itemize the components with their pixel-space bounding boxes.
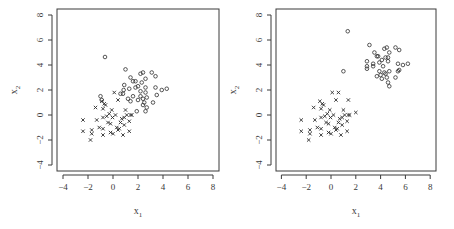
x-tick-label: −2 — [301, 182, 311, 192]
circle-point — [144, 91, 148, 95]
cross-point — [340, 123, 343, 126]
plot-frame — [276, 9, 436, 171]
cross-point — [343, 113, 346, 116]
circle-point — [129, 99, 133, 103]
cross-point — [121, 133, 124, 136]
cross-point — [128, 120, 131, 123]
x-tick-label: 8 — [428, 182, 433, 192]
circle-point — [386, 56, 390, 60]
cross-point — [116, 98, 119, 101]
circle-point — [135, 109, 139, 113]
circle-point — [342, 69, 346, 73]
cross-point — [125, 113, 128, 116]
circle-point — [396, 62, 400, 66]
circle-point — [119, 92, 123, 96]
cross-point — [316, 126, 319, 129]
circle-point — [387, 69, 391, 73]
y-axis: −4−202468 — [35, 12, 52, 170]
cross-point — [300, 130, 303, 133]
cross-point — [339, 133, 342, 136]
circle-point — [378, 69, 382, 73]
circle-point — [103, 55, 107, 59]
circle-point — [155, 93, 159, 97]
circle-point — [386, 81, 390, 85]
circle-point — [134, 79, 138, 83]
cross-point — [345, 130, 348, 133]
cross-point — [319, 133, 322, 136]
circle-point — [375, 74, 379, 78]
cross-point — [81, 130, 84, 133]
circle-point — [129, 76, 133, 80]
circle-point — [122, 83, 126, 87]
cross-point — [101, 107, 104, 110]
x-axis: −4−202468 — [58, 175, 216, 192]
cross-point — [101, 133, 104, 136]
cross-point — [300, 118, 303, 121]
y-tick-label: −4 — [254, 160, 264, 170]
y-tick-label: 2 — [35, 88, 45, 93]
cross-point — [90, 128, 93, 131]
cross-point — [119, 121, 122, 124]
cross-point — [319, 116, 322, 119]
y-tick-label: −4 — [35, 160, 45, 170]
circle-point — [401, 63, 405, 67]
y-tick-label: 2 — [254, 88, 264, 93]
circle-point — [368, 43, 372, 47]
y-tick-label: 4 — [35, 62, 45, 67]
circle-point — [406, 62, 410, 66]
circle-point — [144, 86, 148, 90]
circle-point — [380, 77, 384, 81]
circle-point — [381, 64, 385, 68]
circle-point — [99, 94, 103, 98]
circle-point — [151, 101, 155, 105]
circle-point — [127, 87, 131, 91]
y-axis: −4−202468 — [254, 12, 271, 170]
circle-point — [131, 94, 135, 98]
cross-point — [101, 116, 104, 119]
cross-point — [334, 98, 337, 101]
circle-point — [124, 68, 128, 72]
cross-point — [307, 138, 310, 141]
cross-point — [318, 100, 321, 103]
cross-point — [81, 118, 84, 121]
circle-point — [144, 109, 148, 113]
circle-point — [387, 51, 391, 55]
cross-point — [319, 127, 322, 130]
cross-point — [108, 112, 111, 115]
cross-point — [337, 121, 340, 124]
cross-point — [89, 138, 92, 141]
circle-point — [145, 96, 149, 100]
cross-point — [345, 120, 348, 123]
cross-point — [312, 106, 315, 109]
y-tick-label: −2 — [254, 135, 264, 145]
y-axis-label: x2 — [227, 85, 241, 94]
circle-point — [346, 29, 350, 33]
cross-point — [319, 107, 322, 110]
cross-point — [313, 118, 316, 121]
x-axis: −4−202468 — [277, 175, 433, 192]
series-class-cross — [300, 91, 358, 142]
cross-point — [124, 108, 127, 111]
x-tick-label: 6 — [403, 182, 408, 192]
circle-point — [385, 76, 389, 80]
x-tick-label: −4 — [277, 182, 287, 192]
circle-point — [379, 73, 383, 77]
cross-point — [101, 127, 104, 130]
left-scatter-panel: −4−202468−4−202468x1x2 — [8, 9, 219, 219]
cross-point — [98, 126, 101, 129]
circle-point — [154, 74, 158, 78]
circle-point — [140, 81, 144, 85]
cross-point — [342, 108, 345, 111]
y-tick-label: 6 — [254, 37, 264, 42]
circle-point — [387, 84, 391, 88]
series-class-circle — [99, 55, 169, 113]
circle-point — [397, 48, 401, 52]
x-tick-label: 0 — [329, 182, 334, 192]
x-tick-label: 8 — [211, 182, 216, 192]
cross-point — [331, 91, 334, 94]
cross-point — [94, 106, 97, 109]
cross-point — [326, 112, 329, 115]
x-axis-label: x1 — [352, 205, 361, 219]
circle-point — [394, 46, 398, 50]
y-axis-label: x2 — [8, 85, 22, 94]
